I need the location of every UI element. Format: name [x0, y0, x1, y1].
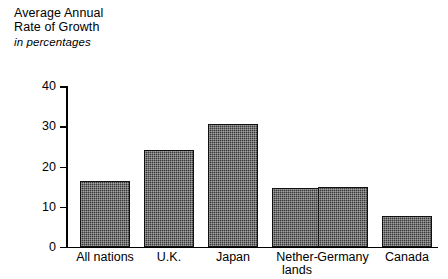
x-label-japan: Japan — [206, 251, 260, 264]
x-label-canada-line-1: Canada — [385, 250, 429, 264]
bar-chart: Average Annual Rate of Growth in percent… — [0, 0, 448, 279]
x-label-uk: U.K. — [142, 251, 196, 264]
plot-area: 40 30 20 10 0 All nations U.K. Japan — [0, 0, 448, 279]
x-label-canada: Canada — [379, 251, 435, 264]
x-label-uk-line-1: U.K. — [157, 250, 181, 264]
y-axis-line — [66, 86, 68, 248]
y-tick-30 — [60, 126, 66, 128]
bar-netherlands — [272, 188, 322, 247]
bar-canada — [382, 216, 432, 247]
x-label-germany: Germany — [314, 251, 372, 264]
x-label-netherlands-line-2: lands — [268, 264, 326, 277]
x-label-netherlands-line-1: Nether- — [276, 250, 318, 264]
bar-japan — [208, 124, 258, 247]
x-label-japan-line-1: Japan — [216, 250, 250, 264]
bar-germany — [318, 187, 368, 247]
y-tick-label-10: 10 — [42, 201, 56, 213]
y-tick-40 — [60, 86, 66, 88]
y-tick-label-20: 20 — [42, 161, 56, 173]
y-tick-label-30: 30 — [42, 120, 56, 132]
y-tick-label-0: 0 — [49, 241, 56, 253]
y-tick-label-40: 40 — [42, 80, 56, 92]
x-label-all-nations: All nations — [66, 251, 144, 264]
x-label-germany-line-1: Germany — [317, 250, 368, 264]
x-label-all-nations-line-1: All nations — [76, 250, 134, 264]
y-tick-20 — [60, 167, 66, 169]
y-tick-0 — [60, 247, 66, 249]
bar-all-nations — [80, 181, 130, 247]
y-tick-10 — [60, 207, 66, 209]
bar-uk — [144, 150, 194, 247]
